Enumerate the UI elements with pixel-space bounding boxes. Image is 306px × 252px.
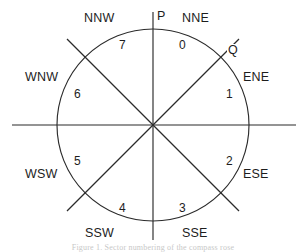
sector-label-1: 1: [225, 88, 234, 100]
sector-label-5: 5: [73, 155, 82, 167]
compass-figure: NNW NNE ENE ESE SSE SSW WSW WNW 0 1 2 3 …: [0, 0, 306, 252]
direction-label-nnw: NNW: [83, 12, 115, 25]
direction-label-ese: ESE: [242, 168, 270, 181]
point-label-p: P: [156, 10, 166, 23]
compass-diagram-svg: [0, 0, 306, 252]
direction-label-wsw: WSW: [24, 168, 59, 181]
direction-label-nne: NNE: [181, 12, 210, 25]
sector-label-3: 3: [178, 202, 187, 214]
direction-label-wnw: WNW: [24, 71, 59, 84]
direction-label-ssw: SSW: [84, 227, 115, 240]
point-label-q: Q: [227, 44, 239, 57]
sector-label-2: 2: [225, 155, 234, 167]
direction-label-sse: SSE: [181, 227, 209, 240]
sector-label-7: 7: [118, 39, 127, 51]
sector-label-4: 4: [118, 202, 127, 214]
axes-group: [12, 12, 296, 240]
sector-label-0: 0: [178, 39, 187, 51]
direction-label-ene: ENE: [242, 71, 270, 84]
figure-caption: Figure 1. Sector numbering of the compas…: [0, 243, 306, 252]
sector-label-6: 6: [73, 88, 82, 100]
